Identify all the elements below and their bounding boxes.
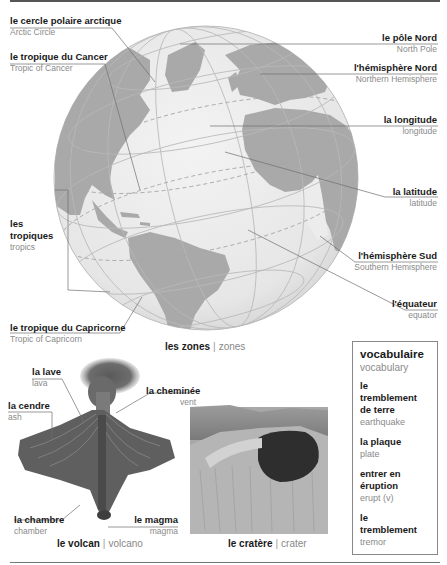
vocab-item-erupt: entrer en éruption erupt (v) bbox=[360, 468, 430, 504]
bottom-rule bbox=[10, 562, 440, 563]
label-southern-hemisphere: l'hémisphère Sud Southern Hemisphere bbox=[354, 250, 437, 273]
label-fr: l'hémisphère Nord bbox=[354, 62, 437, 74]
caption-en: zones bbox=[219, 341, 246, 352]
vocab-item-earthquake: le tremblement de terre earthquake bbox=[360, 380, 430, 428]
label-magma: le magma magma bbox=[128, 514, 178, 537]
label-en: latitude bbox=[393, 198, 437, 209]
label-fr: le tropique du Capricorne bbox=[10, 322, 126, 334]
label-lava: la lave lava bbox=[32, 366, 61, 389]
vocabulary-title-en: vocabulary bbox=[360, 361, 430, 374]
vocab-term-en: plate bbox=[360, 448, 430, 460]
label-en: lava bbox=[32, 378, 61, 389]
label-tropic-capricorn: le tropique du Capricorne Tropic of Capr… bbox=[10, 322, 126, 345]
label-en: longitude bbox=[384, 126, 437, 137]
vocab-term-line: la plaque bbox=[360, 436, 430, 448]
label-fr: la chambre bbox=[14, 514, 64, 526]
label-ash: la cendre ash bbox=[8, 400, 50, 423]
label-latitude: la latitude latitude bbox=[393, 186, 437, 209]
label-en: Northern Hemisphere bbox=[354, 74, 437, 85]
label-north-pole: le pôle Nord North Pole bbox=[382, 32, 437, 55]
vocabulary-box: vocabulaire vocabulary le tremblement de… bbox=[352, 341, 438, 555]
caption-crater: le cratère|crater bbox=[228, 538, 307, 549]
label-vent: la cheminée vent bbox=[146, 385, 196, 408]
caption-en: volcano bbox=[108, 538, 142, 549]
caption-separator: | bbox=[213, 341, 216, 352]
label-en: chamber bbox=[14, 526, 64, 537]
label-fr: la longitude bbox=[384, 114, 437, 126]
label-fr: le magma bbox=[128, 514, 178, 526]
label-en: Tropic of Cancer bbox=[10, 63, 108, 74]
label-fr: l'hémisphère Sud bbox=[354, 250, 437, 262]
label-longitude: la longitude longitude bbox=[384, 114, 437, 137]
caption-volcano: le volcan|volcano bbox=[57, 538, 143, 549]
label-en: vent bbox=[146, 397, 196, 408]
caption-separator: | bbox=[275, 538, 278, 549]
label-fr: la latitude bbox=[393, 186, 437, 198]
vocab-term-line: entrer en bbox=[360, 468, 430, 480]
caption-separator: | bbox=[103, 538, 106, 549]
crater-photo bbox=[190, 405, 328, 534]
vocab-term-en: erupt (v) bbox=[360, 492, 430, 504]
label-fr: la lave bbox=[32, 366, 61, 378]
vocab-term-line: le bbox=[360, 512, 430, 524]
vocab-term-en: tremor bbox=[360, 536, 430, 548]
vocab-term-en: earthquake bbox=[360, 416, 430, 428]
label-en: Tropic of Capricorn bbox=[10, 334, 126, 345]
vocab-term-line: de terre bbox=[360, 404, 430, 416]
label-arctic-circle: le cercle polaire arctique Arctic Circle bbox=[10, 15, 121, 38]
caption-en: crater bbox=[281, 538, 307, 549]
label-en: ash bbox=[8, 412, 50, 423]
caption-fr: le volcan bbox=[57, 538, 100, 549]
label-fr: le pôle Nord bbox=[382, 32, 437, 44]
caption-fr: les zones bbox=[165, 341, 210, 352]
label-tropic-cancer: le tropique du Cancer Tropic of Cancer bbox=[10, 51, 108, 74]
label-fr-line1: les bbox=[10, 218, 53, 230]
label-fr-line2: tropiques bbox=[10, 230, 53, 242]
label-en: magma bbox=[128, 526, 178, 537]
vocab-term-line: tremblement bbox=[360, 392, 430, 404]
label-chamber: la chambre chamber bbox=[14, 514, 64, 537]
caption-zones: les zones|zones bbox=[165, 341, 245, 352]
vocab-term-line: tremblement bbox=[360, 524, 430, 536]
vocab-item-tremor: le tremblement tremor bbox=[360, 512, 430, 548]
vocab-item-plate: la plaque plate bbox=[360, 436, 430, 460]
caption-fr: le cratère bbox=[228, 538, 272, 549]
vocab-term-line: éruption bbox=[360, 480, 430, 492]
label-tropics: les tropiques tropics bbox=[10, 218, 53, 253]
label-en: Southern Hemisphere bbox=[354, 262, 437, 273]
label-en: tropics bbox=[10, 242, 53, 253]
label-en: Arctic Circle bbox=[10, 27, 121, 38]
label-en: equator bbox=[392, 310, 437, 321]
label-fr: l'équateur bbox=[392, 298, 437, 310]
label-fr: la cheminée bbox=[146, 385, 196, 397]
label-fr: le cercle polaire arctique bbox=[10, 15, 121, 27]
label-en: North Pole bbox=[382, 44, 437, 55]
label-equator: l'équateur equator bbox=[392, 298, 437, 321]
label-fr: la cendre bbox=[8, 400, 50, 412]
vocabulary-title: vocabulaire bbox=[360, 348, 430, 361]
label-northern-hemisphere: l'hémisphère Nord Northern Hemisphere bbox=[354, 62, 437, 85]
vocab-term-line: le bbox=[360, 380, 430, 392]
label-fr: le tropique du Cancer bbox=[10, 51, 108, 63]
